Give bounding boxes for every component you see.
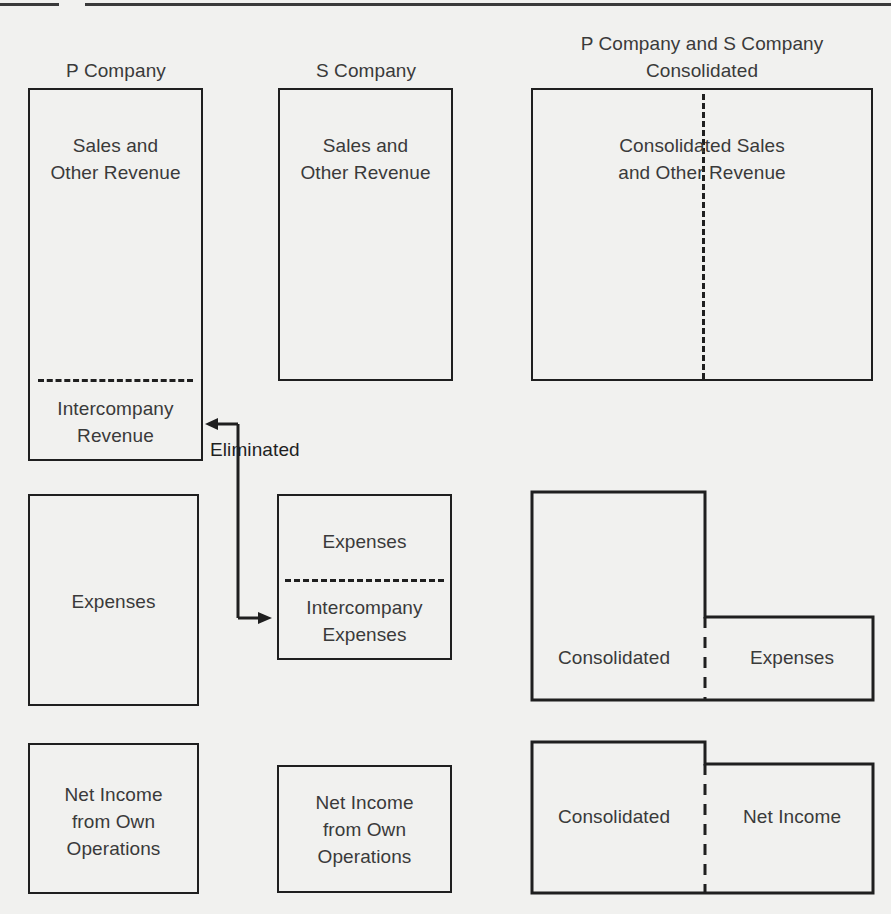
diagram-canvas: P Company S Company P Company and S Comp… — [0, 0, 891, 914]
p-company-expenses-box: Expenses — [28, 494, 199, 706]
p-company-revenue-box: Sales and Other Revenue Intercompany Rev… — [28, 88, 203, 461]
consolidated-revenue-label: Consolidated Sales and Other Revenue — [533, 132, 871, 186]
p-company-expenses-label: Expenses — [30, 588, 197, 615]
eliminated-annotation-label: Eliminated — [210, 439, 300, 461]
s-company-net-income-box: Net Income from Own Operations — [277, 765, 452, 893]
top-rule-right — [85, 3, 891, 6]
s-company-expenses-dashed-divider — [285, 579, 444, 582]
s-company-revenue-box: Sales and Other Revenue — [278, 88, 453, 381]
top-rule-left — [0, 3, 59, 6]
s-company-expenses-box: Expenses Intercompany Expenses — [277, 494, 452, 660]
consolidated-expenses-left-label: Consolidated — [531, 644, 697, 671]
column-header-consolidated: P Company and S Company Consolidated — [531, 30, 873, 84]
consolidated-net-income-right-label: Net Income — [712, 803, 872, 830]
p-company-revenue-dashed-divider — [38, 379, 193, 382]
consolidated-expenses-right-label: Expenses — [712, 644, 872, 671]
consolidated-net-income-left-label: Consolidated — [531, 803, 697, 830]
consolidated-revenue-box: Consolidated Sales and Other Revenue — [531, 88, 873, 381]
p-company-net-income-box: Net Income from Own Operations — [28, 743, 199, 894]
column-header-p-company: P Company — [29, 57, 203, 84]
s-company-revenue-label: Sales and Other Revenue — [280, 132, 451, 186]
p-company-net-income-label: Net Income from Own Operations — [30, 781, 197, 862]
p-company-revenue-label: Sales and Other Revenue — [30, 132, 201, 186]
column-header-s-company: S Company — [279, 57, 453, 84]
s-company-net-income-label: Net Income from Own Operations — [279, 789, 450, 870]
s-company-intercompany-expenses-label: Intercompany Expenses — [279, 594, 450, 648]
p-company-intercompany-revenue-label: Intercompany Revenue — [30, 395, 201, 449]
s-company-expenses-label: Expenses — [279, 528, 450, 555]
